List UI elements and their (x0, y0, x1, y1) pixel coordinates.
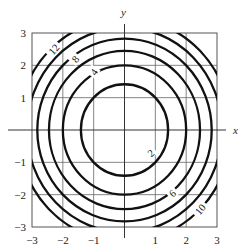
x-tick-label: −1 (88, 234, 100, 246)
contour-label: 2 (143, 145, 158, 161)
y-tick-label: 2 (21, 59, 27, 71)
y-tick-label: −2 (14, 189, 26, 201)
x-tick-label: 3 (214, 234, 220, 246)
x-tick-label: −3 (26, 234, 38, 246)
contour-plot: 12842610 −3−2−1123321−1−2−3 x y (0, 0, 243, 252)
y-tick-label: −1 (14, 156, 26, 168)
contour-label: 12 (44, 39, 63, 59)
y-tick-label: −3 (14, 221, 26, 233)
x-tick-label: 2 (183, 234, 189, 246)
y-tick-label: 3 (21, 27, 27, 39)
tick-labels: −3−2−1123321−1−2−3 (14, 27, 220, 246)
x-tick-label: −2 (57, 234, 69, 246)
y-axis-label: y (120, 6, 126, 18)
x-tick-label: 1 (153, 234, 159, 246)
x-axis-label: x (232, 124, 238, 136)
y-tick-label: 1 (21, 92, 27, 104)
